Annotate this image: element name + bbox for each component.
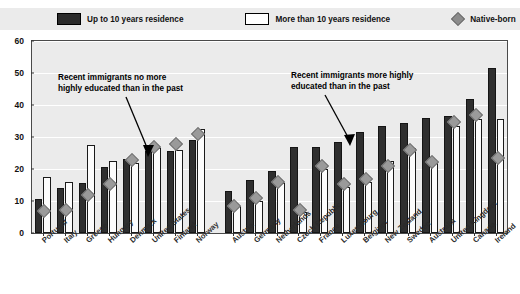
bar-more-than-10-years (197, 129, 205, 233)
right-annotation-arrow-icon (321, 93, 363, 151)
y-axis-tick (31, 105, 34, 106)
legend-item-native-born: Native-born (452, 14, 516, 24)
bar-series-container (32, 41, 507, 233)
left-annotation: Recent immigrants no more highly educate… (58, 73, 183, 94)
y-axis-tick-label: 10 (15, 196, 24, 206)
chart-root: Up to 10 years residence More than 10 ye… (0, 0, 520, 294)
left-annotation-line2: highly educated than in the past (58, 84, 183, 95)
bar-more-than-10-years (343, 187, 351, 233)
y-axis-tick-label: 60 (15, 36, 24, 46)
legend-item-up-to-10-years: Up to 10 years residence (57, 13, 183, 25)
bar-more-than-10-years (431, 161, 439, 233)
left-annotation-line1: Recent immigrants no more (58, 73, 183, 84)
light-square-swatch-icon (245, 13, 269, 25)
y-axis-labels: 0102030405060 (0, 40, 29, 234)
y-axis-tick-label: 30 (15, 132, 24, 142)
bar-more-than-10-years (453, 126, 461, 233)
legend-item-more-than-10-years: More than 10 years residence (245, 13, 390, 25)
bar-up-to-10-years (225, 191, 233, 233)
y-axis-tick-label: 40 (15, 100, 24, 110)
y-axis-tick (31, 233, 34, 234)
right-annotation-line2: educated than in the past (291, 82, 413, 93)
bar-up-to-10-years (378, 126, 386, 233)
y-axis-tick-label: 50 (15, 68, 24, 78)
bar-up-to-10-years (422, 118, 430, 233)
legend-label: More than 10 years residence (275, 15, 390, 24)
plot-area: Recent immigrants no more highly educate… (31, 40, 508, 234)
bar-up-to-10-years (189, 140, 197, 233)
dark-square-swatch-icon (57, 13, 81, 25)
y-axis-tick (31, 73, 34, 74)
left-annotation-arrow-icon (122, 95, 162, 161)
legend-label: Native-born (470, 15, 516, 24)
bar-more-than-10-years (109, 161, 117, 233)
chart-legend: Up to 10 years residence More than 10 ye… (0, 8, 520, 30)
right-annotation-line1: Recent immigrants more highly (291, 71, 413, 82)
y-axis-tick (31, 201, 34, 202)
right-annotation: Recent immigrants more highly educated t… (291, 71, 413, 92)
x-axis-labels: PortugalItalyGreeceHungaryDenmarkUnited … (0, 234, 520, 294)
y-axis-tick (31, 169, 34, 170)
grey-diamond-marker-icon (451, 12, 465, 26)
legend-label: Up to 10 years residence (87, 15, 183, 24)
y-axis-tick (31, 137, 34, 138)
y-axis-tick (31, 41, 34, 42)
y-axis-tick-label: 20 (15, 164, 24, 174)
bar-more-than-10-years (497, 119, 505, 233)
